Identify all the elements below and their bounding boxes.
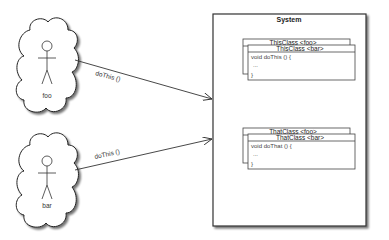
actor-bar[interactable]: bar: [16, 133, 78, 227]
class-body-line: }: [251, 161, 253, 167]
class-stack-thisclass[interactable]: ThisClass <foo> ThisClass <bar> void doT…: [243, 39, 355, 81]
class-body-line: }: [251, 72, 253, 78]
message-arrow-bar[interactable]: doThis (): [75, 139, 212, 170]
class-stack-thatclass[interactable]: ThatClass <foo> ThatClass <bar> void doT…: [243, 128, 355, 170]
class-box-front[interactable]: ThisClass <bar> void doThis () { ... }: [248, 45, 355, 81]
message-label: doThis (): [94, 69, 121, 83]
diagram-canvas: foo bar doThis () doThis () System ThisC…: [0, 0, 389, 240]
actor-label: foo: [42, 92, 51, 99]
class-body-line: ...: [253, 62, 258, 68]
actor-foo[interactable]: foo: [16, 18, 78, 112]
system-title: System: [277, 16, 302, 24]
class-header: ThatClass <bar>: [276, 134, 324, 141]
class-body-line: void doThat () {: [251, 143, 292, 149]
actor-label: bar: [42, 202, 52, 209]
class-body-line: void doThis () {: [251, 54, 291, 60]
class-body-line: ...: [253, 151, 258, 157]
message-arrow-foo[interactable]: doThis (): [75, 60, 212, 99]
message-label: doThis (): [94, 148, 121, 161]
class-header: ThisClass <bar>: [276, 45, 324, 52]
class-box-front[interactable]: ThatClass <bar> void doThat () { ... }: [248, 134, 355, 170]
